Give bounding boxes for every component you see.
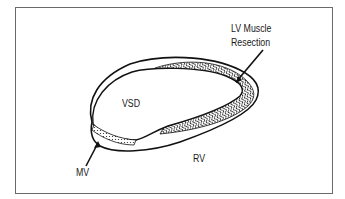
label-lv-muscle-resection-line1: LV Muscle [231,23,271,35]
label-rv: RV [193,153,205,165]
heart-cross-section-diagram [0,0,345,199]
label-lv-muscle-resection-line2: Resection [231,37,270,49]
label-mv: MV [76,167,89,179]
label-vsd: VSD [122,98,140,110]
